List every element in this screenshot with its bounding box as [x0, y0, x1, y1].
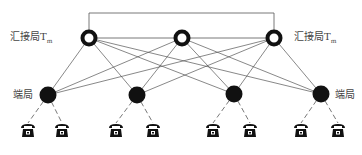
- trunk-line: [274, 38, 321, 94]
- end-office-node: [226, 86, 243, 103]
- telephone-icon: [109, 124, 123, 137]
- end-office-label-left: 端局: [13, 86, 33, 101]
- telephone-icon: [294, 124, 308, 137]
- telephone-icon: [21, 124, 35, 137]
- trunk-line: [48, 38, 274, 95]
- telephone-icon: [206, 124, 220, 137]
- tandem-label-sub: m: [331, 37, 337, 44]
- trunk-line: [182, 38, 321, 94]
- trunk-line: [182, 38, 234, 94]
- end-office-label-right: 端局: [335, 86, 355, 101]
- tandem-office-node: [83, 32, 96, 45]
- tandem-label-text: 汇接局T: [294, 31, 331, 42]
- telephone-icon: [243, 124, 257, 137]
- tandem-office-node: [268, 32, 281, 45]
- tandem-label-right: 汇接局Tm: [294, 28, 336, 44]
- telephone-icon: [146, 124, 160, 137]
- telephone-icon: [331, 124, 345, 137]
- trunk-line: [89, 38, 137, 95]
- tandem-label-left: 汇接局Tm: [10, 28, 52, 44]
- end-office-node: [129, 87, 146, 104]
- tandem-label-text: 汇接局T: [10, 31, 47, 42]
- telephone-icon: [55, 124, 69, 137]
- trunk-line: [137, 38, 182, 95]
- tandem-office-node: [176, 32, 189, 45]
- end-office-node: [40, 87, 57, 104]
- tandem-label-sub: m: [47, 37, 53, 44]
- end-office-node: [313, 86, 330, 103]
- network-diagram: [0, 0, 362, 155]
- trunk-line: [89, 38, 321, 94]
